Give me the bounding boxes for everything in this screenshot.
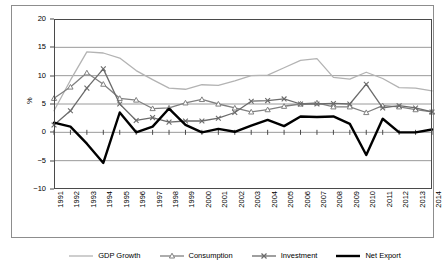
x-axis: 1991199219931994199519961997199819992000… bbox=[54, 191, 432, 225]
x-tick-label: 1992 bbox=[73, 191, 81, 208]
x-tick-label: 1991 bbox=[57, 191, 65, 208]
chart-frame: 20151050−5−10 % 199119921993199419951996… bbox=[11, 5, 434, 238]
x-tick-label: 2005 bbox=[287, 191, 295, 208]
x-tick-label: 1997 bbox=[156, 191, 164, 208]
x-tick-label: 1996 bbox=[139, 191, 147, 208]
x-tick-label: 2000 bbox=[205, 191, 213, 208]
legend-label: Consumption bbox=[189, 252, 233, 260]
legend-swatch-line-icon bbox=[335, 251, 361, 261]
chart-legend: GDP GrowthConsumptionInvestmentNet Expor… bbox=[23, 246, 446, 263]
y-tick-label: 10 bbox=[38, 72, 46, 80]
x-tick-label: 2013 bbox=[419, 191, 427, 208]
legend-swatch-triangle-icon bbox=[159, 251, 185, 261]
series-lines bbox=[54, 19, 432, 189]
x-tick-label: 2014 bbox=[435, 191, 443, 208]
legend-item-net-export[interactable]: Net Export bbox=[335, 251, 400, 261]
x-tick-label: 1994 bbox=[106, 191, 114, 208]
x-tick-label: 2009 bbox=[353, 191, 361, 208]
legend-label: GDP Growth bbox=[98, 252, 140, 260]
x-tick-label: 2004 bbox=[271, 191, 279, 208]
x-tick-label: 1993 bbox=[90, 191, 98, 208]
x-tick-label: 2008 bbox=[336, 191, 344, 208]
y-tick-label: 15 bbox=[38, 44, 46, 52]
legend-swatch-line-icon bbox=[68, 251, 94, 261]
x-tick-label: 2003 bbox=[254, 191, 262, 208]
x-tick-label: 2007 bbox=[320, 191, 328, 208]
y-tick-label: 0 bbox=[42, 129, 46, 137]
legend-swatch-x-icon bbox=[251, 251, 277, 261]
x-tick-label: 2011 bbox=[386, 191, 394, 207]
x-tick-label: 2002 bbox=[238, 191, 246, 208]
y-tick-label: −5 bbox=[37, 157, 46, 165]
legend-item-gdp-growth[interactable]: GDP Growth bbox=[68, 251, 140, 261]
x-tick-label: 1999 bbox=[188, 191, 196, 208]
chart-screenshot: 20151050−5−10 % 199119921993199419951996… bbox=[0, 0, 447, 263]
y-tick-label: 5 bbox=[42, 100, 46, 108]
x-tick-label: 1995 bbox=[123, 191, 131, 208]
legend-label: Net Export bbox=[365, 252, 400, 260]
y-axis-title: % bbox=[25, 97, 34, 104]
y-tick-label: 20 bbox=[38, 15, 46, 23]
x-tick-label: 2001 bbox=[221, 191, 229, 208]
y-axis: 20151050−5−10 bbox=[12, 19, 50, 189]
y-tick-label: −10 bbox=[33, 185, 46, 193]
x-tick-label: 1998 bbox=[172, 191, 180, 208]
x-tick-label: 2010 bbox=[369, 191, 377, 208]
x-tick-label: 2012 bbox=[402, 191, 410, 208]
legend-item-consumption[interactable]: Consumption bbox=[159, 251, 233, 261]
legend-item-investment[interactable]: Investment bbox=[251, 251, 318, 261]
x-tick-label: 2006 bbox=[304, 191, 312, 208]
series-gdp-growth bbox=[54, 52, 432, 111]
legend-label: Investment bbox=[281, 252, 318, 260]
series-net-export bbox=[54, 109, 432, 163]
series-investment bbox=[52, 66, 435, 127]
plot-area bbox=[54, 19, 432, 189]
